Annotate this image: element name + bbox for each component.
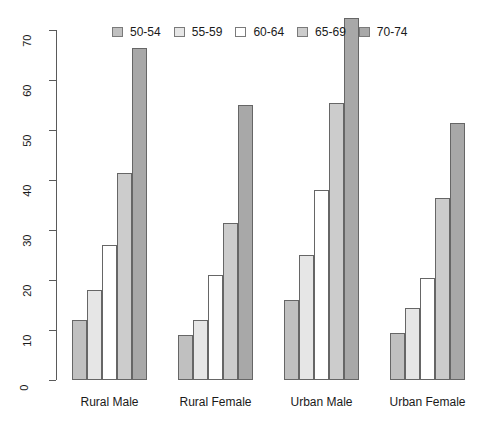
bar xyxy=(299,255,314,380)
plot-area: 010203040506070 Rural MaleRural FemaleUr… xyxy=(0,0,487,434)
x-axis-group-label: Urban Male xyxy=(264,395,379,409)
y-axis-tick xyxy=(49,80,56,81)
bar xyxy=(284,300,299,380)
legend-item: 50-54 xyxy=(112,25,161,39)
legend-swatch xyxy=(359,27,370,37)
x-axis-group-label: Rural Male xyxy=(52,395,167,409)
y-axis-tick-label: 0 xyxy=(0,374,42,386)
bar xyxy=(132,48,147,381)
legend-swatch xyxy=(297,27,308,37)
bar xyxy=(344,18,359,381)
legend-swatch xyxy=(174,27,185,37)
x-axis-group-label: Rural Female xyxy=(158,395,273,409)
legend-label: 65-69 xyxy=(315,25,346,39)
bar xyxy=(314,190,329,380)
y-axis-tick-label: 40 xyxy=(0,174,42,186)
y-axis-tick xyxy=(49,130,56,131)
y-axis-tick-label: 20 xyxy=(0,274,42,286)
y-axis-tick-label-text: 10 xyxy=(22,335,33,347)
bar xyxy=(223,223,238,381)
legend-item: 60-64 xyxy=(235,25,284,39)
y-axis-line xyxy=(56,30,57,380)
bar xyxy=(405,308,420,381)
legend-item: 55-59 xyxy=(174,25,223,39)
y-axis-tick xyxy=(49,330,56,331)
y-axis-tick-label: 30 xyxy=(0,224,42,236)
bar xyxy=(390,333,405,381)
y-axis-tick-label: 50 xyxy=(0,124,42,136)
y-axis-tick-label: 10 xyxy=(0,324,42,336)
y-axis-tick-label-text: 50 xyxy=(22,135,33,147)
y-axis-tick-label: 60 xyxy=(0,74,42,86)
y-axis-tick-label-text: 20 xyxy=(22,285,33,297)
bar xyxy=(193,320,208,380)
bar xyxy=(420,278,435,381)
y-axis-tick-label-text: 70 xyxy=(22,35,33,47)
y-axis-tick xyxy=(49,230,56,231)
y-axis-tick xyxy=(49,280,56,281)
bar xyxy=(72,320,87,380)
y-axis-tick-label-text: 60 xyxy=(22,85,33,97)
y-axis-tick xyxy=(49,30,56,31)
bar xyxy=(450,123,465,381)
legend-swatch xyxy=(112,27,123,37)
y-axis-tick-label-text: 30 xyxy=(22,235,33,247)
y-axis-tick-label: 70 xyxy=(0,24,42,36)
bar-chart: 010203040506070 Rural MaleRural FemaleUr… xyxy=(0,0,487,434)
legend-label: 55-59 xyxy=(192,25,223,39)
x-axis-group-label: Urban Female xyxy=(370,395,485,409)
bar xyxy=(435,198,450,381)
bar xyxy=(178,335,193,380)
bar xyxy=(117,173,132,381)
bar xyxy=(102,245,117,380)
legend-swatch xyxy=(235,27,246,37)
bar xyxy=(208,275,223,380)
y-axis-tick xyxy=(49,180,56,181)
legend: 50-5455-5960-6465-6970-74 xyxy=(112,25,421,39)
legend-item: 65-69 xyxy=(297,25,346,39)
legend-label: 60-64 xyxy=(253,25,284,39)
bar xyxy=(329,103,344,381)
bar xyxy=(87,290,102,380)
legend-label: 70-74 xyxy=(377,25,408,39)
legend-item: 70-74 xyxy=(359,25,408,39)
legend-label: 50-54 xyxy=(130,25,161,39)
bar xyxy=(238,105,253,380)
y-axis-tick xyxy=(49,380,56,381)
y-axis-tick-label-text: 40 xyxy=(22,185,33,197)
y-axis-tick-label-text: 0 xyxy=(19,385,30,391)
